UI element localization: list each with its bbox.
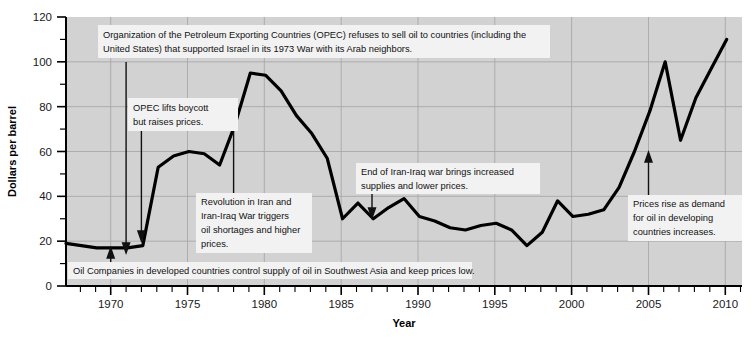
x-tick-label: 1970 xyxy=(98,298,124,310)
x-tick-label: 1990 xyxy=(405,298,431,310)
annotation-line: countries increases. xyxy=(633,227,716,237)
y-axis-title: Dollars per barrel xyxy=(6,106,18,197)
y-tick-label: 120 xyxy=(33,11,52,23)
x-tick-label: 2005 xyxy=(636,298,662,310)
annotation-line: for oil in developing xyxy=(633,213,713,223)
annotation-opec-embargo: Organization of the Petroleum Exporting … xyxy=(98,25,550,58)
x-tick-label: 2010 xyxy=(713,298,739,310)
annotation-iran-revolution: Revolution in Iran and Iran-Iraq War tri… xyxy=(196,193,312,253)
x-tick-label: 1980 xyxy=(252,298,278,310)
annotation-line: prices. xyxy=(201,239,228,249)
annotation-line: Revolution in Iran and xyxy=(201,197,291,207)
annotation-line: supplies and lower prices. xyxy=(361,181,468,191)
y-tick-label: 60 xyxy=(39,146,52,158)
annotation-developing-demand: Prices rise as demand for oil in develop… xyxy=(628,195,742,241)
chart-canvas: 0 20 40 60 80 100 120 Dollars per barrel xyxy=(0,0,752,338)
annotation-line: Iran-Iraq War triggers xyxy=(201,211,289,221)
annotation-opec-lifts-boycott: OPEC lifts boycott but raises prices. xyxy=(128,98,238,131)
y-tick-label: 100 xyxy=(33,56,52,68)
annotation-line: OPEC lifts boycott xyxy=(133,103,209,113)
oil-price-chart: 0 20 40 60 80 100 120 Dollars per barrel xyxy=(0,0,752,338)
x-tick-label: 2000 xyxy=(559,298,585,310)
y-tick-label: 40 xyxy=(39,190,52,202)
y-tick-label: 20 xyxy=(39,235,52,247)
annotation-line: Prices rise as demand xyxy=(633,199,725,209)
y-axis-major-ticks xyxy=(57,17,66,286)
x-tick-label: 1975 xyxy=(175,298,201,310)
x-tick-label: 1995 xyxy=(482,298,508,310)
y-tick-label: 80 xyxy=(39,101,52,113)
annotation-line: oil shortages and higher xyxy=(201,225,300,235)
annotation-line: Oil Companies in developed countries con… xyxy=(73,266,475,276)
x-axis-tick-labels: 1970 1975 1980 1985 1990 1995 2000 2005 … xyxy=(98,298,738,310)
x-axis-title: Year xyxy=(392,317,416,329)
annotation-line: End of Iran-Iraq war brings increased xyxy=(361,167,514,177)
annotation-line: but raises prices. xyxy=(133,117,203,127)
y-axis-tick-labels: 0 20 40 60 80 100 120 xyxy=(33,11,52,292)
annotation-line: United States) that supported Israel in … xyxy=(103,44,412,54)
x-tick-label: 1985 xyxy=(328,298,354,310)
annotation-end-iran-iraq-war: End of Iran-Iraq war brings increased su… xyxy=(356,163,540,194)
annotation-oil-companies-control: Oil Companies in developed countries con… xyxy=(68,262,475,279)
y-tick-label: 0 xyxy=(46,280,52,292)
annotation-line: Organization of the Petroleum Exporting … xyxy=(103,30,526,40)
